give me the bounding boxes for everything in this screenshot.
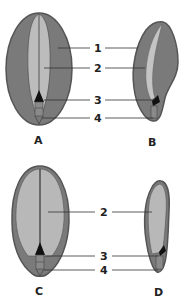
seed-c xyxy=(12,166,69,276)
seed-a xyxy=(6,13,72,125)
callout-2: 2 xyxy=(94,62,102,75)
panel-label-a: A xyxy=(34,134,43,147)
callout-3: 3 xyxy=(94,94,102,107)
seed-d xyxy=(145,181,170,272)
panel-label-c: C xyxy=(35,285,43,298)
seed-b-radicle xyxy=(151,106,157,118)
callout-3-bottom: 3 xyxy=(100,250,108,263)
seed-d-radicle xyxy=(156,256,163,269)
callout-4: 4 xyxy=(94,112,102,125)
seed-a-radicle xyxy=(35,102,43,116)
callout-4-bottom: 4 xyxy=(100,264,108,277)
callout-2-bottom: 2 xyxy=(100,206,108,219)
panel-label-b: B xyxy=(148,136,156,149)
seed-diagram: 1 2 3 4 A B 2 3 4 C D xyxy=(0,0,186,306)
seed-d-endosperm xyxy=(148,184,166,254)
seed-b xyxy=(133,22,178,121)
panel-label-d: D xyxy=(154,286,163,299)
callout-1: 1 xyxy=(94,42,102,55)
